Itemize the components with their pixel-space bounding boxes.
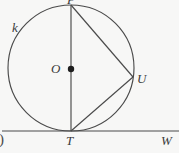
label-point-t: T [66, 134, 73, 147]
label-point-w: W [161, 134, 172, 147]
label-point-u: U [137, 72, 146, 85]
crop-fragment-paren: ) [0, 132, 4, 147]
label-circle-k: k [12, 21, 18, 34]
label-center-o: O [51, 62, 60, 75]
figure-canvas [0, 0, 179, 153]
geometry-figure: P k O U T W ) [0, 0, 179, 153]
center-point-dot [68, 66, 74, 72]
label-point-top: P [67, 0, 75, 6]
chord-top-to-u [71, 5, 133, 77]
